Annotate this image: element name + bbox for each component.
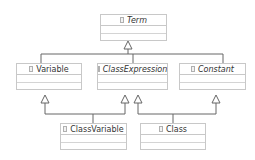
operations-compartment <box>141 143 205 150</box>
operations-compartment <box>180 83 245 90</box>
attributes-compartment <box>141 135 205 143</box>
class-term[interactable]: Term <box>100 14 167 41</box>
class-constant[interactable]: Constant <box>179 63 246 90</box>
class-name: Class <box>166 125 187 134</box>
attributes-compartment <box>180 75 245 83</box>
operations-compartment <box>17 83 81 90</box>
operations-compartment <box>61 143 126 150</box>
class-class-variable[interactable]: ClassVariable <box>60 123 127 150</box>
class-class-expression[interactable]: ClassExpression <box>97 63 168 90</box>
class-icon <box>29 66 33 72</box>
operations-compartment <box>101 34 166 41</box>
operations-compartment <box>98 83 167 90</box>
class-icon <box>98 66 100 72</box>
attributes-compartment <box>17 75 81 83</box>
attributes-compartment <box>101 26 166 34</box>
class-icon <box>159 126 163 132</box>
class-name: Term <box>127 16 147 25</box>
class-icon <box>191 66 195 72</box>
class-class[interactable]: Class <box>140 123 206 150</box>
class-icon <box>63 126 67 132</box>
class-icon <box>120 17 124 23</box>
class-variable[interactable]: Variable <box>16 63 82 90</box>
attributes-compartment <box>98 75 167 83</box>
class-name: ClassExpression <box>103 65 167 74</box>
class-name: Variable <box>36 65 68 74</box>
attributes-compartment <box>61 135 126 143</box>
class-name: ClassVariable <box>70 125 123 134</box>
class-name: Constant <box>198 65 234 74</box>
